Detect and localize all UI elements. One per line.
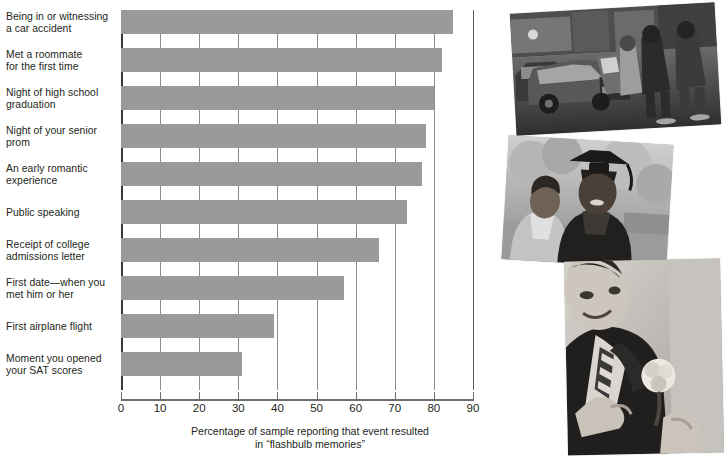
bar: [121, 162, 422, 186]
category-label-line-2: prom: [6, 137, 116, 149]
x-tick-70: [395, 392, 396, 400]
x-tick-10: [160, 392, 161, 400]
category-label: First date—when youmet him or her: [6, 277, 116, 301]
category-label-line-2: admissions letter: [6, 251, 116, 263]
x-axis-caption-line-2: in “flashbulb memories”: [115, 438, 505, 451]
category-label: Being in or witnessinga car accident: [6, 11, 116, 35]
bar: [121, 124, 426, 148]
category-label-line-2: experience: [6, 175, 116, 187]
x-tick-50: [317, 392, 318, 400]
x-tick-label: 50: [302, 401, 332, 415]
category-label: An early romanticexperience: [6, 163, 116, 187]
category-label: Met a roommatefor the first time: [6, 49, 116, 73]
bar: [121, 238, 379, 262]
category-label: Receipt of collegeadmissions letter: [6, 239, 116, 263]
x-tick-label: 60: [341, 401, 371, 415]
prom-photo: [564, 258, 724, 455]
category-label-line-1: Moment you opened: [6, 353, 116, 365]
category-label-line-2: met him or her: [6, 289, 116, 301]
car-accident-photo: [510, 2, 721, 135]
category-label-line-2: a car accident: [6, 23, 116, 35]
figure-page: Being in or witnessinga car accidentMet …: [0, 0, 725, 461]
category-label: Night of your seniorprom: [6, 125, 116, 149]
x-tick-40: [277, 392, 278, 400]
category-label-line-2: your SAT scores: [6, 365, 116, 377]
bar-chart: Being in or witnessinga car accidentMet …: [0, 0, 500, 461]
x-tick-30: [238, 392, 239, 400]
graduation-photo: [501, 135, 673, 269]
category-label: Moment you openedyour SAT scores: [6, 353, 116, 377]
bar: [121, 314, 274, 338]
category-label: Night of high schoolgraduation: [6, 87, 116, 111]
category-label-line-1: Night of high school: [6, 87, 116, 99]
x-tick-90: [473, 392, 474, 400]
category-axis-labels: Being in or witnessinga car accidentMet …: [6, 10, 114, 390]
bar: [121, 10, 453, 34]
x-tick-20: [199, 392, 200, 400]
category-label-line-1: Being in or witnessing: [6, 11, 116, 23]
x-tick-label: 10: [145, 401, 175, 415]
bar: [121, 276, 344, 300]
category-label-line-1: Receipt of college: [6, 239, 116, 251]
x-tick-label: 30: [223, 401, 253, 415]
gridline-90: [473, 10, 474, 390]
bar: [121, 200, 407, 224]
plot-area: [121, 10, 473, 390]
bar: [121, 86, 434, 110]
category-label: First airplane flight: [6, 321, 116, 333]
x-tick-60: [356, 392, 357, 400]
x-tick-label: 70: [380, 401, 410, 415]
x-tick-0: [121, 392, 122, 400]
category-label-line-1: Night of your senior: [6, 125, 116, 137]
category-label-line-2: graduation: [6, 99, 116, 111]
x-axis-caption-line-1: Percentage of sample reporting that even…: [115, 425, 505, 438]
x-tick-label: 80: [419, 401, 449, 415]
bar: [121, 352, 242, 376]
category-label-line-1: An early romantic: [6, 163, 116, 175]
x-axis-caption: Percentage of sample reporting that even…: [115, 425, 505, 451]
category-label-line-1: Public speaking: [6, 207, 116, 219]
x-tick-80: [434, 392, 435, 400]
x-tick-label: 40: [262, 401, 292, 415]
category-label-line-1: Met a roommate: [6, 49, 116, 61]
category-label-line-1: First date—when you: [6, 277, 116, 289]
x-tick-label: 90: [458, 401, 488, 415]
bar: [121, 48, 442, 72]
x-tick-label: 20: [184, 401, 214, 415]
category-label-line-2: for the first time: [6, 61, 116, 73]
category-label: Public speaking: [6, 207, 116, 219]
category-label-line-1: First airplane flight: [6, 321, 116, 333]
x-tick-label: 0: [106, 401, 136, 415]
